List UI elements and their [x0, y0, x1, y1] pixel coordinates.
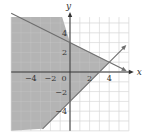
y-axis-label: y [65, 1, 72, 11]
y-tick-label: −4 [55, 107, 67, 116]
x-axis-arrow-icon [129, 70, 134, 74]
y-tick-label: −2 [55, 88, 67, 97]
x-tick-label: 2 [87, 74, 92, 83]
y-tick-label: 2 [62, 48, 67, 57]
y-tick-label: 4 [62, 29, 67, 38]
x-axis-label: x [137, 67, 142, 77]
x-tick-label: −2 [45, 74, 57, 83]
x-tick-label: −4 [25, 74, 37, 83]
x-tick-label: 4 [107, 74, 112, 83]
inequality-graph: −4−202442−2−4 x y [0, 0, 142, 137]
x-tick-label: 0 [61, 74, 66, 83]
y-axis-arrow-icon [68, 12, 72, 17]
